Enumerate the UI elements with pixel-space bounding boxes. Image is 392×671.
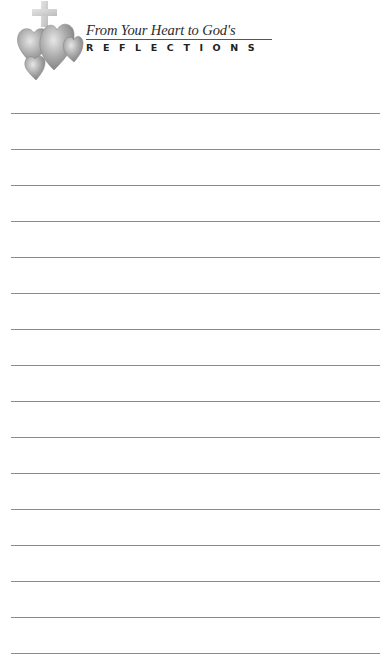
writing-line[interactable] bbox=[11, 149, 380, 150]
writing-line[interactable] bbox=[11, 365, 380, 366]
writing-line[interactable] bbox=[11, 653, 380, 654]
writing-line[interactable] bbox=[11, 617, 380, 618]
writing-lines bbox=[11, 0, 380, 671]
writing-line[interactable] bbox=[11, 113, 380, 114]
writing-line[interactable] bbox=[11, 221, 380, 222]
writing-line[interactable] bbox=[11, 545, 380, 546]
writing-line[interactable] bbox=[11, 257, 380, 258]
writing-line[interactable] bbox=[11, 329, 380, 330]
writing-line[interactable] bbox=[11, 293, 380, 294]
writing-line[interactable] bbox=[11, 185, 380, 186]
writing-line[interactable] bbox=[11, 581, 380, 582]
writing-line[interactable] bbox=[11, 509, 380, 510]
writing-line[interactable] bbox=[11, 401, 380, 402]
writing-line[interactable] bbox=[11, 473, 380, 474]
writing-line[interactable] bbox=[11, 437, 380, 438]
journal-page: From Your Heart to God's REFLECTIONS bbox=[0, 0, 392, 671]
